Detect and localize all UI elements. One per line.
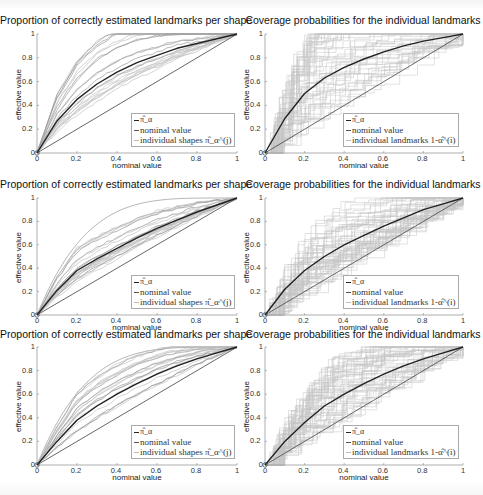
legend-entry: nominal value: [346, 437, 455, 447]
x-tick-label: 1: [461, 466, 465, 475]
y-tick-label: 0.6: [250, 389, 260, 398]
legend-swatch: [346, 432, 351, 433]
y-tick-label: 0.2: [250, 436, 260, 445]
legend-entry: individual landmarks 1-α̂^(i): [346, 447, 455, 457]
y-tick-label: 0: [259, 460, 263, 469]
x-tick-label: 0: [263, 466, 267, 475]
legend-swatch: [346, 452, 351, 453]
legend-swatch: [346, 442, 351, 443]
legend-entry: π̂_α: [346, 427, 455, 437]
y-tick-label: 0.8: [250, 366, 260, 375]
x-tick-label: 0.2: [298, 466, 308, 475]
x-axis-label: nominal value: [314, 473, 414, 482]
legend-label: π̂_α: [352, 427, 364, 437]
legend-label: individual landmarks 1-α̂^(i): [352, 447, 455, 457]
legend-label: nominal value: [352, 437, 403, 447]
y-tick-label: 0.4: [250, 413, 260, 422]
y-tick-label: 1: [259, 342, 263, 351]
chart-legend: π̂_αnominal valueindividual landmarks 1-…: [343, 425, 459, 459]
x-tick-label: 0.8: [417, 466, 427, 475]
y-axis-label: effective value: [242, 381, 251, 432]
